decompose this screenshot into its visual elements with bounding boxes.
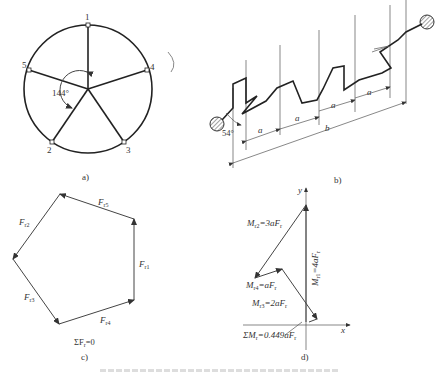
svg-text:ΣMr=0.449aFr: ΣMr=0.449aFr bbox=[242, 330, 296, 341]
svg-text:Mr2=3aFr: Mr2=3aFr bbox=[246, 218, 282, 229]
svg-text:Fr4: Fr4 bbox=[99, 315, 111, 326]
point-label-5: 5 bbox=[22, 60, 27, 70]
crank-throws bbox=[29, 25, 147, 142]
caption-b: b) bbox=[334, 175, 342, 185]
angle-label-144: 144° bbox=[52, 88, 70, 98]
svg-text:ΣFr=0: ΣFr=0 bbox=[74, 337, 95, 348]
ext-lines bbox=[233, 0, 406, 168]
svg-text:x: x bbox=[340, 325, 345, 335]
point-label-2: 2 bbox=[47, 145, 52, 155]
dim-a-3: a bbox=[331, 100, 336, 110]
svg-text:Mr3=2aFr: Mr3=2aFr bbox=[251, 298, 287, 309]
point-label-4: 4 bbox=[150, 62, 155, 72]
caption-d: d) bbox=[301, 352, 309, 362]
journal-right-icon bbox=[420, 15, 434, 29]
panel-d-moment-polygon: x y Mr1=4aFr Mr2=3aFr Mr4=aFr Mr3=2aFr Σ… bbox=[242, 185, 350, 362]
rotation-arrow-icon bbox=[168, 52, 174, 72]
svg-text:Fr5: Fr5 bbox=[97, 197, 109, 208]
svg-text:Mr1=4aFr: Mr1=4aFr bbox=[310, 251, 321, 287]
dim-a-1: a bbox=[258, 125, 263, 135]
figure-canvas: 144° 1 2 3 4 5 a) 54° a bbox=[0, 0, 441, 379]
panel-c-force-polygon: Fr5 Fr2 Fr1 Fr3 Fr4 ΣFr=0 c) bbox=[13, 194, 150, 362]
svg-text:Fr1: Fr1 bbox=[138, 259, 150, 270]
caption-c: c) bbox=[81, 352, 88, 362]
svg-text:y: y bbox=[297, 185, 302, 195]
figure-caption-faint bbox=[100, 369, 340, 372]
dim-b: b bbox=[325, 123, 330, 133]
panel-a-crank-diagram: 144° 1 2 3 4 5 a) bbox=[22, 12, 174, 182]
caption-a: a) bbox=[82, 172, 89, 182]
point-label-1: 1 bbox=[85, 12, 90, 22]
crank-profile bbox=[222, 24, 422, 120]
svg-text:Fr3: Fr3 bbox=[23, 292, 35, 303]
dim-a-4: a bbox=[367, 87, 372, 97]
svg-text:Fr2: Fr2 bbox=[18, 217, 30, 228]
angle-label-54: 54° bbox=[222, 128, 234, 138]
panel-b-crankshaft: 54° a a a a b b) bbox=[210, 0, 434, 185]
point-label-3: 3 bbox=[126, 145, 131, 155]
svg-text:Mr4=aFr: Mr4=aFr bbox=[245, 280, 277, 291]
dim-a-2: a bbox=[295, 113, 300, 123]
